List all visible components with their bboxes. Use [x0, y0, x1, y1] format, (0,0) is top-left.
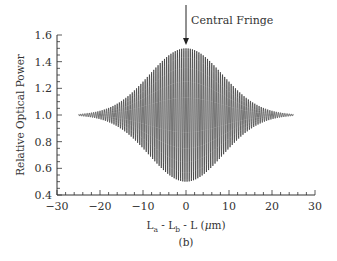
- y-tick-label: 1.2: [35, 82, 53, 95]
- y-tick-label: 0.6: [35, 162, 53, 175]
- y-ticks: 0.40.60.81.01.21.41.6: [35, 29, 63, 202]
- x-tick-label: 0: [183, 200, 190, 213]
- y-tick-label: 1.0: [35, 109, 53, 122]
- x-tick-label: −10: [131, 200, 154, 213]
- x-tick-label: 10: [222, 200, 236, 213]
- x-ticks: −30−20−100102030: [45, 190, 322, 213]
- chart: 0.40.60.81.01.21.41.6 −30−20−100102030 R…: [0, 0, 337, 261]
- central-fringe-annotation: Central Fringe: [183, 5, 273, 45]
- arrow-head-icon: [183, 38, 189, 45]
- y-tick-label: 1.4: [35, 56, 53, 69]
- fringe-signal-line: [79, 48, 294, 181]
- central-fringe-label: Central Fringe: [191, 14, 273, 27]
- x-tick-label: −20: [88, 200, 111, 213]
- x-tick-label: 20: [265, 200, 279, 213]
- x-tick-label: 30: [308, 200, 322, 213]
- y-tick-label: 1.6: [35, 29, 53, 42]
- y-tick-label: 0.8: [35, 136, 53, 149]
- panel-label: (b): [179, 236, 194, 248]
- fringe-signal: [79, 48, 294, 181]
- y-axis-label: Relative Optical Power: [14, 53, 26, 176]
- x-axis-label: La - Lb - L (μm): [146, 219, 225, 234]
- x-tick-label: −30: [45, 200, 68, 213]
